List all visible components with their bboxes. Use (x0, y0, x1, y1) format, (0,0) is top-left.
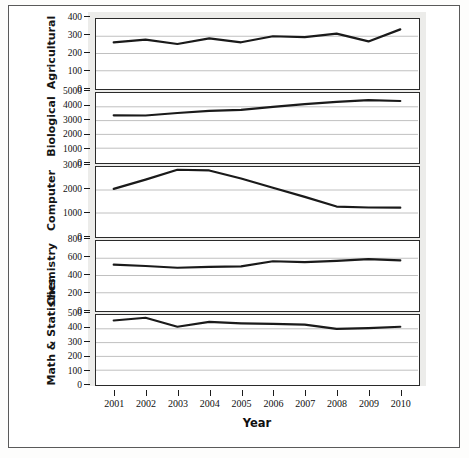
y-tick-value: 0 (77, 380, 82, 390)
x-tick-mark (369, 390, 370, 396)
y-tick-mark (84, 148, 90, 149)
y-tick-value: 2000 (63, 184, 82, 194)
x-tick-mark (242, 390, 243, 396)
y-tick-label: 500 (48, 309, 90, 319)
y-tick-label: 300 (48, 338, 90, 348)
y-tick-label: 5000 (48, 87, 90, 97)
y-tick-mark (84, 327, 90, 328)
y-tick-label: 100 (48, 67, 90, 77)
y-tick-mark (84, 70, 90, 71)
y-tick-mark (84, 312, 90, 313)
y-tick-label: 100 (48, 367, 90, 377)
x-tick-label: 2001 (104, 398, 124, 409)
x-tick-mark (210, 390, 211, 396)
x-tick-mark (114, 390, 115, 396)
y-tick-value: 200 (68, 288, 82, 298)
panel-chemistry (95, 240, 420, 312)
y-tick-value: 400 (68, 12, 82, 22)
x-tick-mark (305, 390, 306, 396)
x-tick-label: 2008 (327, 398, 347, 409)
x-tick-label: 2007 (295, 398, 315, 409)
series-line (114, 100, 401, 115)
y-tick-mark (84, 164, 90, 165)
y-tick-label: 2000 (48, 185, 90, 195)
x-tick-label: 2006 (263, 398, 283, 409)
y-tick-value: 1000 (63, 144, 82, 154)
y-tick-label: 400 (48, 13, 90, 23)
y-tick-mark (84, 52, 90, 53)
x-tick-label: 2009 (359, 398, 379, 409)
y-tick-value: 400 (68, 270, 82, 280)
panel-agricultural (95, 18, 420, 90)
y-tick-value: 200 (68, 48, 82, 58)
y-tick-mark (84, 384, 90, 385)
y-tick-mark (84, 370, 90, 371)
y-tick-mark (84, 34, 90, 35)
y-axis-0: 0100200300400 (0, 18, 90, 90)
y-tick-label: 600 (48, 253, 90, 263)
y-tick-mark (84, 188, 90, 189)
x-tick-label: 2004 (200, 398, 220, 409)
y-tick-value: 800 (68, 234, 82, 244)
y-tick-value: 3000 (63, 160, 82, 170)
panel-math-statistics (95, 314, 420, 386)
series-line (114, 259, 401, 268)
y-tick-mark (84, 16, 90, 17)
x-tick-label: 2003 (168, 398, 188, 409)
y-tick-mark (84, 341, 90, 342)
y-tick-value: 500 (68, 308, 82, 318)
y-tick-value: 200 (68, 351, 82, 361)
y-tick-label: 3000 (48, 116, 90, 126)
y-tick-label: 400 (48, 323, 90, 333)
y-tick-label: 3000 (48, 161, 90, 171)
y-axis-1: 010002000300040005000 (0, 92, 90, 164)
y-tick-value: 1000 (63, 208, 82, 218)
x-tick-mark (337, 390, 338, 396)
y-tick-value: 3000 (63, 115, 82, 125)
y-tick-value: 2000 (63, 129, 82, 139)
series-line (114, 170, 401, 208)
x-tick-mark (146, 390, 147, 396)
y-tick-value: 600 (68, 252, 82, 262)
y-tick-mark (84, 119, 90, 120)
y-axis-4: 0100200300400500 (0, 314, 90, 386)
y-tick-value: 300 (68, 337, 82, 347)
panel-computer (95, 166, 420, 238)
x-tick-mark (178, 390, 179, 396)
x-tick-label: 2010 (391, 398, 411, 409)
x-tick-label: 2005 (232, 398, 252, 409)
y-tick-mark (84, 238, 90, 239)
y-tick-label: 1000 (48, 145, 90, 155)
y-tick-value: 300 (68, 30, 82, 40)
y-tick-value: 400 (68, 322, 82, 332)
y-tick-label: 300 (48, 31, 90, 41)
y-tick-value: 100 (68, 366, 82, 376)
y-tick-label: 200 (48, 352, 90, 362)
series-line (114, 318, 401, 329)
y-tick-mark (84, 105, 90, 106)
y-tick-value: 4000 (63, 100, 82, 110)
x-tick-label: 2002 (136, 398, 156, 409)
y-tick-mark (84, 292, 90, 293)
y-tick-mark (84, 90, 90, 91)
y-tick-mark (84, 356, 90, 357)
x-tick-mark (401, 390, 402, 396)
x-tick-mark (273, 390, 274, 396)
y-tick-label: 0 (48, 381, 90, 391)
y-tick-mark (84, 134, 90, 135)
y-tick-label: 800 (48, 235, 90, 245)
y-tick-label: 4000 (48, 101, 90, 111)
y-axis-2: 0100020003000 (0, 166, 90, 238)
x-axis-tick-labels: 2001200220032004200520062007200820092010 (88, 398, 426, 414)
panel-biological (95, 92, 420, 164)
y-tick-label: 200 (48, 49, 90, 59)
y-tick-label: 1000 (48, 209, 90, 219)
y-tick-mark (84, 256, 90, 257)
y-tick-mark (84, 212, 90, 213)
x-axis-title: Year (88, 416, 426, 430)
figure-canvas: Agricultural0100200300400Biological01000… (0, 0, 469, 458)
y-tick-value: 100 (68, 66, 82, 76)
y-tick-value: 5000 (63, 86, 82, 96)
y-tick-label: 2000 (48, 130, 90, 140)
y-tick-mark (84, 274, 90, 275)
